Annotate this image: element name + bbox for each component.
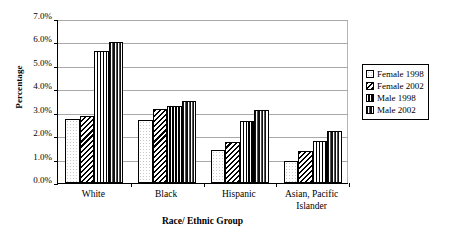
legend-swatch-icon (366, 94, 374, 102)
bar (298, 151, 313, 183)
legend-item[interactable]: Male 2002 (366, 104, 424, 116)
x-axis-tick-label: Asian, PacificIslander (275, 188, 348, 212)
x-axis-tick-label-line: Black (130, 188, 203, 200)
bar-group (276, 20, 349, 183)
x-axis-group-tick (276, 183, 277, 187)
x-axis-tick-label: White (57, 188, 130, 200)
legend-item[interactable]: Female 2002 (366, 80, 424, 92)
bar (313, 141, 328, 183)
y-axis-tick-label: 3.0% (14, 106, 52, 115)
legend-item[interactable]: Female 1998 (366, 68, 424, 80)
legend-swatch-icon (366, 70, 374, 78)
y-axis-tick-label: 6.0% (14, 35, 52, 44)
y-axis-tick-label: 4.0% (14, 82, 52, 91)
x-axis-tick-label: Black (130, 188, 203, 200)
bar (182, 101, 197, 183)
legend-label: Male 2002 (377, 106, 416, 115)
bar (284, 161, 299, 183)
y-axis-tick-label: 2.0% (14, 129, 52, 138)
bar (138, 120, 153, 183)
y-axis-tick-labels: 0.0%1.0%2.0%3.0%4.0%5.0%6.0%7.0% (14, 16, 52, 184)
bar (211, 150, 226, 183)
legend-swatch-icon (366, 82, 374, 90)
bar (327, 131, 342, 183)
x-axis-tick-label: Hispanic (203, 188, 276, 200)
legend-item[interactable]: Male 1998 (366, 92, 424, 104)
x-axis-tick-label-line: Hispanic (203, 188, 276, 200)
y-axis-tickmark (54, 184, 58, 185)
x-axis-tick-label-line: Asian, Pacific (275, 188, 348, 200)
bar (167, 106, 182, 183)
y-axis-tick-label: 0.0% (14, 176, 52, 185)
x-axis-tick-label-line: Islander (275, 200, 348, 212)
bar (80, 116, 95, 183)
y-axis-tick-label: 7.0% (14, 12, 52, 21)
plot-area (57, 20, 348, 184)
y-axis-tick-label: 5.0% (14, 59, 52, 68)
bar-group (58, 20, 131, 183)
legend-label: Female 2002 (377, 82, 424, 91)
bar (65, 119, 80, 183)
bar (254, 110, 269, 183)
bar (153, 109, 168, 183)
x-axis-group-tick (131, 183, 132, 187)
bar (240, 121, 255, 183)
bar (225, 142, 240, 183)
legend-label: Male 1998 (377, 94, 416, 103)
bar-group (131, 20, 204, 183)
x-axis-tick-labels: WhiteBlackHispanicAsian, PacificIslander (57, 188, 348, 218)
x-axis-group-tick (204, 183, 205, 187)
x-axis-title: Race/ Ethnic Group (57, 216, 348, 226)
legend-swatch-icon (366, 106, 374, 114)
bar-group (204, 20, 277, 183)
x-axis-group-tick (349, 183, 350, 187)
bar (109, 42, 124, 183)
bar (94, 51, 109, 183)
bar-chart: Percentage 0.0%1.0%2.0%3.0%4.0%5.0%6.0%7… (0, 0, 459, 237)
y-axis-tick-label: 1.0% (14, 153, 52, 162)
x-axis-tick-label-line: White (57, 188, 130, 200)
legend: Female 1998Female 2002Male 1998Male 2002 (362, 64, 429, 120)
legend-label: Female 1998 (377, 70, 424, 79)
